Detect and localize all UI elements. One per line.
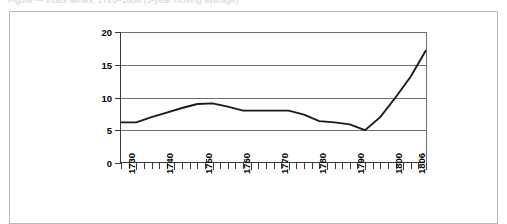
x-tick-1754 [228, 163, 229, 169]
chart-container: 05101520 1730174017501760177017801790180… [10, 12, 499, 224]
figure-caption: Figure — index series, 1726–1806 (5-year… [8, 0, 239, 5]
y-axis-label-5: 5 [107, 125, 112, 136]
x-tick-1746 [197, 163, 198, 169]
x-tick-1740 [174, 163, 175, 170]
x-tick-1756 [235, 163, 236, 169]
x-tick-1782 [335, 163, 336, 169]
x-tick-1732 [144, 163, 145, 169]
x-tick-1752 [220, 163, 221, 169]
x-tick-1774 [304, 163, 305, 169]
series-1-line [121, 50, 426, 130]
x-tick-1776 [312, 163, 313, 169]
series-line-group [121, 32, 426, 163]
x-tick-1764 [266, 163, 267, 169]
x-tick-1742 [182, 163, 183, 169]
x-tick-1792 [373, 163, 374, 169]
x-tick-1734 [152, 163, 153, 169]
y-axis-label-0: 0 [107, 158, 112, 169]
x-tick-1744 [190, 163, 191, 169]
x-tick-1794 [380, 163, 381, 169]
x-tick-1786 [350, 163, 351, 169]
y-axis-label-10: 10 [101, 92, 112, 103]
y-axis-label-15: 15 [101, 59, 112, 70]
x-tick-1784 [342, 163, 343, 169]
x-tick-1796 [388, 163, 389, 169]
plot-area: 05101520 1730174017501760177017801790180… [120, 32, 425, 163]
x-tick-1772 [296, 163, 297, 169]
figure-caption-strip: Figure — index series, 1726–1806 (5-year… [0, 0, 507, 9]
x-tick-1736 [159, 163, 160, 169]
x-tick-1802 [411, 163, 412, 169]
y-axis-label-20: 20 [101, 27, 112, 38]
x-tick-1726 [121, 163, 122, 169]
x-tick-1762 [258, 163, 259, 169]
x-tick-1766 [274, 163, 275, 169]
figure-frame: 05101520 1730174017501760177017801790180… [9, 11, 498, 224]
figure-screenshot: Figure — index series, 1726–1806 (5-year… [0, 0, 507, 224]
